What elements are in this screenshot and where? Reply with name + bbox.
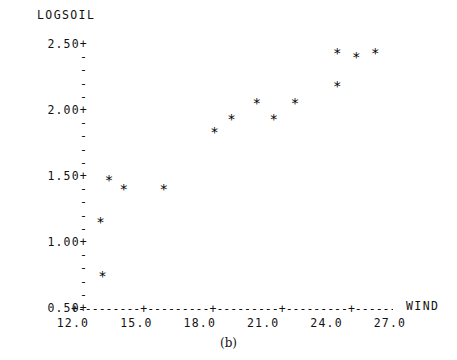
x-tick-label: 21.0 [233, 316, 293, 330]
y-tick-major: 2.50+ [22, 37, 88, 51]
y-tick-major: 1.50+ [22, 169, 88, 183]
y-tick-minor: - [22, 143, 88, 157]
data-point: * [330, 79, 344, 93]
data-point: * [288, 96, 302, 110]
data-point: * [225, 112, 239, 126]
data-point: * [267, 112, 281, 126]
data-point: * [117, 182, 131, 196]
y-tick-minor: - [22, 129, 88, 143]
x-tick-label: 15.0 [106, 316, 166, 330]
data-point: * [102, 173, 116, 187]
y-tick-minor: - [22, 288, 88, 302]
y-tick-minor: - [22, 63, 88, 77]
data-point: * [96, 269, 110, 283]
data-point: * [157, 182, 171, 196]
scatter-plot-figure: LOGSOIL 2.50+----2.00+----1.50+----1.00+… [0, 0, 457, 360]
y-tick-minor: - [22, 195, 88, 209]
y-tick-minor: - [22, 248, 88, 262]
y-tick-minor: - [22, 275, 88, 289]
y-tick-major: 2.00+ [22, 103, 88, 117]
x-axis-line: +---------+---------+---------+---------… [71, 302, 393, 316]
y-axis-title: LOGSOIL [37, 8, 95, 22]
x-tick-label: 12.0 [43, 316, 103, 330]
x-tick-label: 18.0 [170, 316, 230, 330]
data-point: * [250, 96, 264, 110]
y-tick-minor: - [22, 222, 88, 236]
y-tick-minor: - [22, 261, 88, 275]
y-tick-minor: - [22, 156, 88, 170]
y-tick-minor: - [22, 77, 88, 91]
data-point: * [208, 125, 222, 139]
y-tick-minor: - [22, 90, 88, 104]
y-tick-minor: - [22, 116, 88, 130]
data-point: * [349, 50, 363, 64]
data-point: * [330, 46, 344, 60]
plot-area: LOGSOIL 2.50+----2.00+----1.50+----1.00+… [0, 0, 457, 360]
y-tick-major: 1.00+ [22, 235, 88, 249]
y-tick-minor: - [22, 209, 88, 223]
x-tick-label: 24.0 [297, 316, 357, 330]
figure-caption: (b) [0, 336, 457, 350]
y-tick-minor: - [22, 182, 88, 196]
x-tick-label: 27.0 [360, 316, 420, 330]
x-axis-title: WIND [406, 299, 439, 313]
data-point: * [368, 46, 382, 60]
data-point: * [93, 215, 107, 229]
y-tick-minor: - [22, 50, 88, 64]
